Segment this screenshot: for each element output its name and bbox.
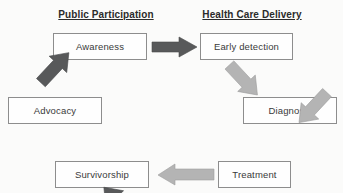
arrow-awareness-to-early-detection bbox=[152, 37, 198, 57]
section-heading-public-participation: Public Participation bbox=[44, 9, 168, 20]
diagram-canvas: Public Participation Health Care Deliver… bbox=[0, 0, 343, 193]
arrow-early-detection-to-diagnosis bbox=[229, 62, 291, 102]
arrow-advocacy-to-awareness bbox=[58, 62, 120, 102]
arrow-survivorship-to-advocacy bbox=[60, 126, 122, 166]
arrow-diagnosis-to-treatment bbox=[241, 126, 303, 166]
section-heading-health-care-delivery: Health Care Delivery bbox=[188, 9, 316, 20]
arrow-treatment-to-survivorship bbox=[157, 164, 215, 186]
node-early-detection[interactable]: Early detection bbox=[200, 33, 293, 60]
